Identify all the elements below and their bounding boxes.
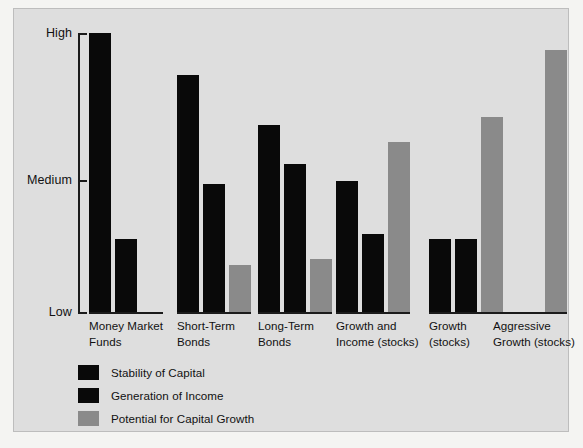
- legend-label-income: Generation of Income: [111, 389, 224, 402]
- baseline-segment: [493, 312, 567, 314]
- category-label-0: Money Market Funds: [89, 318, 181, 349]
- baseline-segment: [258, 312, 332, 314]
- bar: [203, 184, 225, 312]
- legend-label-growth: Potential for Capital Growth: [111, 412, 254, 425]
- baseline-segment: [429, 312, 503, 314]
- category-label-4: Growth (stocks): [429, 318, 499, 349]
- legend-item-stability: Stability of Capital: [78, 361, 254, 384]
- category-label-2: Long-Term Bonds: [258, 318, 344, 349]
- bar: [481, 117, 503, 312]
- chart-legend: Stability of Capital Generation of Incom…: [78, 361, 254, 430]
- bar: [177, 75, 199, 312]
- baseline-segment: [177, 312, 251, 314]
- bar: [455, 239, 477, 312]
- bar: [229, 265, 251, 312]
- legend-item-growth: Potential for Capital Growth: [78, 407, 254, 430]
- bar: [362, 234, 384, 312]
- bar: [284, 164, 306, 312]
- bar: [89, 33, 111, 312]
- legend-label-stability: Stability of Capital: [111, 366, 205, 379]
- figure-root: High Medium Low Money Market Funds Short…: [0, 0, 583, 448]
- legend-swatch-growth: [78, 411, 99, 426]
- baseline-segment: [89, 312, 163, 314]
- category-label-3: Growth and Income (stocks): [336, 318, 430, 349]
- bar: [115, 239, 137, 312]
- baseline-segment: [336, 312, 410, 314]
- bar: [310, 259, 332, 312]
- legend-item-income: Generation of Income: [78, 384, 254, 407]
- bar: [388, 142, 410, 312]
- bar: [429, 239, 451, 312]
- legend-swatch-income: [78, 388, 99, 403]
- bar: [258, 125, 280, 312]
- category-label-1: Short-Term Bonds: [177, 318, 263, 349]
- bar: [545, 50, 567, 312]
- bar: [336, 181, 358, 312]
- category-label-5: Aggressive Growth (stocks): [493, 318, 583, 349]
- legend-swatch-stability: [78, 365, 99, 380]
